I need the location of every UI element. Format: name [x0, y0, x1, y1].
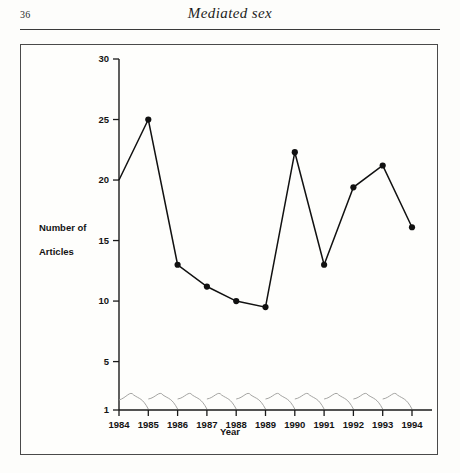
y-axis-tick-label: 25 [85, 114, 109, 125]
chart-axes [119, 59, 432, 410]
running-head-title: Mediated sex [0, 5, 460, 22]
data-point-marker [350, 184, 356, 190]
y-axis-ticks [113, 59, 119, 410]
data-point-marker [175, 262, 181, 268]
page-header: 36 Mediated sex [0, 0, 460, 36]
y-axis-tick-label: 5 [85, 356, 109, 367]
y-axis-tick-label: 20 [85, 174, 109, 185]
y-axis-tick-label: 1 [85, 404, 109, 415]
series-markers [145, 116, 415, 310]
x-axis-ticks [119, 410, 412, 416]
x-axis-label: Year [21, 426, 439, 438]
figure-frame: 151015202530 198419851986198719881989199… [20, 44, 438, 455]
scan-artifact-line [119, 393, 412, 409]
data-point-marker [321, 262, 327, 268]
y-axis-label-line1: Number of [39, 222, 87, 233]
data-point-marker [292, 149, 298, 155]
plot-area: 151015202530 198419851986198719881989199… [21, 45, 439, 456]
data-point-marker [262, 304, 268, 310]
data-point-marker [233, 298, 239, 304]
y-axis-tick-label: 10 [85, 295, 109, 306]
header-rule [20, 29, 440, 30]
y-axis-tick-label: 30 [85, 53, 109, 64]
series-line [119, 120, 412, 308]
data-point-marker [145, 116, 151, 122]
y-axis-label: Number of Articles [39, 210, 109, 258]
data-point-marker [380, 162, 386, 168]
data-point-marker [409, 224, 415, 230]
y-axis-label-line2: Articles [39, 246, 74, 257]
data-point-marker [204, 283, 210, 289]
